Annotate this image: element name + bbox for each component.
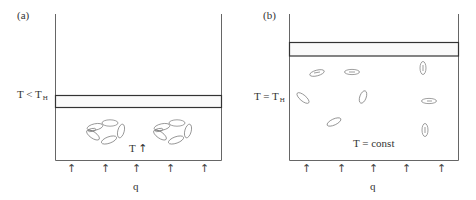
panel-b-temperature-note: T = const — [353, 138, 394, 149]
panel-b-particles — [295, 62, 436, 137]
heat-flux-arrow-icon: ↑ — [67, 163, 76, 174]
panel-a-heat-label: q — [133, 181, 139, 192]
panel-b-slab — [290, 43, 459, 57]
heat-flux-arrow-icon: ↑ — [437, 163, 446, 174]
panel-b-label: (b) — [263, 10, 276, 21]
heat-flux-arrow-icon: ↑ — [132, 163, 141, 174]
panel-b-heat-label: q — [370, 181, 376, 192]
panel-a-label: (a) — [17, 10, 29, 21]
heat-flux-arrow-icon: ↑ — [369, 163, 378, 174]
panel-a-condition-text: T < T — [17, 88, 42, 100]
panel-a-temperature-note: T ↑ — [129, 143, 148, 154]
heat-flux-arrow-icon: ↑ — [101, 163, 110, 174]
panel-a-slab — [56, 96, 222, 108]
heat-flux-arrow-icon: ↑ — [166, 163, 175, 174]
panel-b-condition-text: T = T — [254, 90, 279, 102]
panel-b-condition-label: T = TH — [254, 91, 285, 104]
heat-flux-arrow-icon: ↑ — [402, 163, 411, 174]
panel-a-condition-subscript: H — [43, 94, 48, 102]
panel-a-cluster-1 — [85, 120, 126, 146]
heat-flux-arrow-icon: ↑ — [337, 163, 346, 174]
panel-a-cluster-2 — [152, 120, 193, 146]
temperature-up-arrow-icon: ↑ — [138, 142, 147, 155]
panel-b-condition-subscript: H — [280, 96, 285, 104]
panel-a-condition-label: T < TH — [17, 89, 48, 102]
diagram-figure: (a) T < TH T ↑ ↑ ↑ ↑ ↑ ↑ q (b) T = TH T … — [0, 0, 476, 200]
panel-a-temperature-text: T — [129, 142, 136, 154]
panel-a-container — [56, 14, 222, 161]
heat-flux-arrow-icon: ↑ — [200, 163, 209, 174]
heat-flux-arrow-icon: ↑ — [302, 163, 311, 174]
